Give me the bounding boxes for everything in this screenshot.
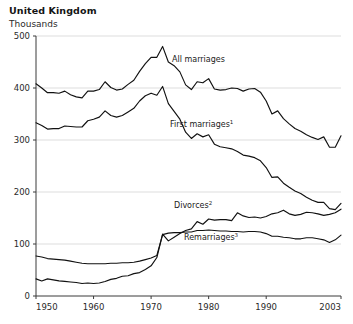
gridlines <box>36 36 341 244</box>
y-tick-label: 300 <box>14 135 30 145</box>
series-label-divorces: Divorces2 <box>174 200 212 210</box>
y-tick-label: 200 <box>14 187 30 197</box>
series-label-all-marriages: All marriages <box>172 55 225 64</box>
series-label-first-marriages: First marriages1 <box>170 119 233 129</box>
x-tick-label: 1990 <box>255 302 277 312</box>
y-tick-label: 0 <box>25 291 30 301</box>
x-axis-ticks: 195019601970198019902003 <box>36 296 341 312</box>
y-tick-label: 500 <box>14 31 30 41</box>
series-line-first-marriages <box>36 86 341 209</box>
series-line-divorces <box>36 209 341 283</box>
series-label-remarriages: Remarriages3 <box>184 232 239 242</box>
series-paths <box>36 46 341 283</box>
line-chart: 0100200300400500 19501960197019801990200… <box>0 0 353 324</box>
y-tick-label: 100 <box>14 239 30 249</box>
x-tick-label: 1950 <box>36 302 58 312</box>
y-axis-ticks: 0100200300400500 <box>14 31 36 301</box>
y-tick-label: 400 <box>14 83 30 93</box>
x-tick-label: 2003 <box>319 302 341 312</box>
x-tick-label: 1980 <box>198 302 220 312</box>
x-tick-label: 1960 <box>83 302 105 312</box>
chart-figure: United Kingdom Thousands 010020030040050… <box>0 0 353 324</box>
x-tick-label: 1970 <box>140 302 162 312</box>
